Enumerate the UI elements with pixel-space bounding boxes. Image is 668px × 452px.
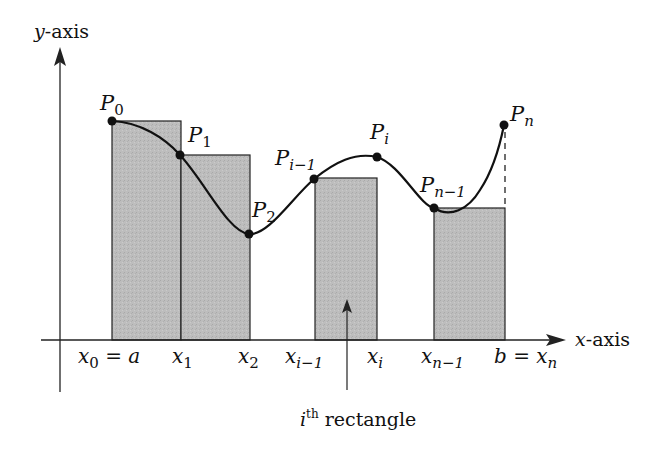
label-p2: P2 [252,200,276,225]
label-p0-sub: 0 [114,101,124,119]
label-pn: Pn [510,104,534,129]
tick-xn: b = xn [494,346,557,371]
label-pi-name: P [370,120,384,144]
tick-xn-sub: n [548,354,558,372]
point-pi [373,153,382,162]
tick-xn-1-var: x [421,344,432,368]
y-axis-label: y-axis [34,22,89,41]
label-pn-1-name: P [420,173,434,197]
annotation-label: ith rectangle [300,408,416,429]
label-p1-name: P [188,123,202,147]
tick-x1-sub: 1 [183,354,193,372]
tick-x0-var: x [78,344,89,368]
tick-x2: x2 [238,346,259,371]
label-pn-1: Pn−1 [420,175,466,200]
tick-xi-var: x [367,344,378,368]
point-pn-1 [430,204,439,213]
label-pi-1: Pi−1 [275,148,316,173]
tick-xi-sub: i [378,354,383,372]
y-axis-label-rest: -axis [45,20,89,42]
label-pn-sub: n [524,112,534,130]
tick-xi: xi [367,346,383,371]
riemann-sum-diagram: y-axis x-axis P0 P1 P2 Pi−1 Pi Pn−1 Pn x… [0,0,668,452]
rectangle-i [315,178,377,340]
rectangle-n [434,208,505,340]
tick-xn-pre: b = [494,344,536,368]
label-pi-sub: i [384,130,389,148]
x-axis-label-var: x [575,328,586,350]
point-p2 [245,230,254,239]
label-p0-name: P [100,91,114,115]
tick-xi-1-var: x [285,344,296,368]
label-p0: P0 [100,93,124,118]
tick-x0-rest: = a [99,344,140,368]
tick-xi-1-sub: i−1 [296,354,323,372]
tick-x1: x1 [172,346,193,371]
diagram-canvas [0,0,668,452]
label-p2-sub: 2 [266,208,276,226]
y-axis-label-var: y [34,20,45,42]
tick-xn-var: x [536,344,547,368]
tick-x0: x0 = a [78,346,140,371]
x-axis-label: x-axis [575,330,630,349]
label-p1-sub: 1 [202,133,212,151]
point-pi-1 [310,175,319,184]
point-pn [500,121,509,130]
tick-x0-sub: 0 [89,354,99,372]
label-pn-name: P [510,102,524,126]
annotation-text: rectangle [319,408,417,430]
tick-x2-sub: 2 [249,354,259,372]
label-pi-1-sub: i−1 [289,156,316,174]
label-p2-name: P [252,198,266,222]
label-pi: Pi [370,122,389,147]
tick-xn-1-sub: n−1 [432,354,464,372]
tick-x2-var: x [238,344,249,368]
tick-xn-1: xn−1 [421,346,464,371]
label-p1: P1 [188,125,212,150]
rectangle-2 [181,155,250,340]
tick-x1-var: x [172,344,183,368]
rectangle-1 [112,121,181,340]
tick-xi-1: xi−1 [285,346,323,371]
x-axis-label-rest: -axis [586,328,630,350]
label-pi-1-name: P [275,146,289,170]
point-p1 [176,151,185,160]
label-pn-1-sub: n−1 [434,183,466,201]
annotation-sup: th [306,407,319,421]
